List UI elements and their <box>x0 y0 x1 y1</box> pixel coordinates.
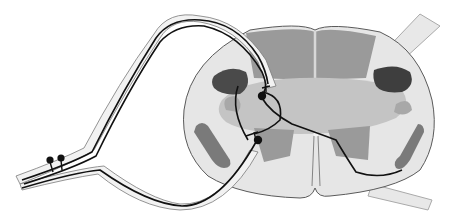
motor-neuron-cell <box>254 136 262 144</box>
right-dark-tract <box>373 66 411 92</box>
interneuron-cell <box>258 92 266 100</box>
spinal-cord-diagram <box>0 0 455 224</box>
diagram-canvas <box>0 0 455 224</box>
